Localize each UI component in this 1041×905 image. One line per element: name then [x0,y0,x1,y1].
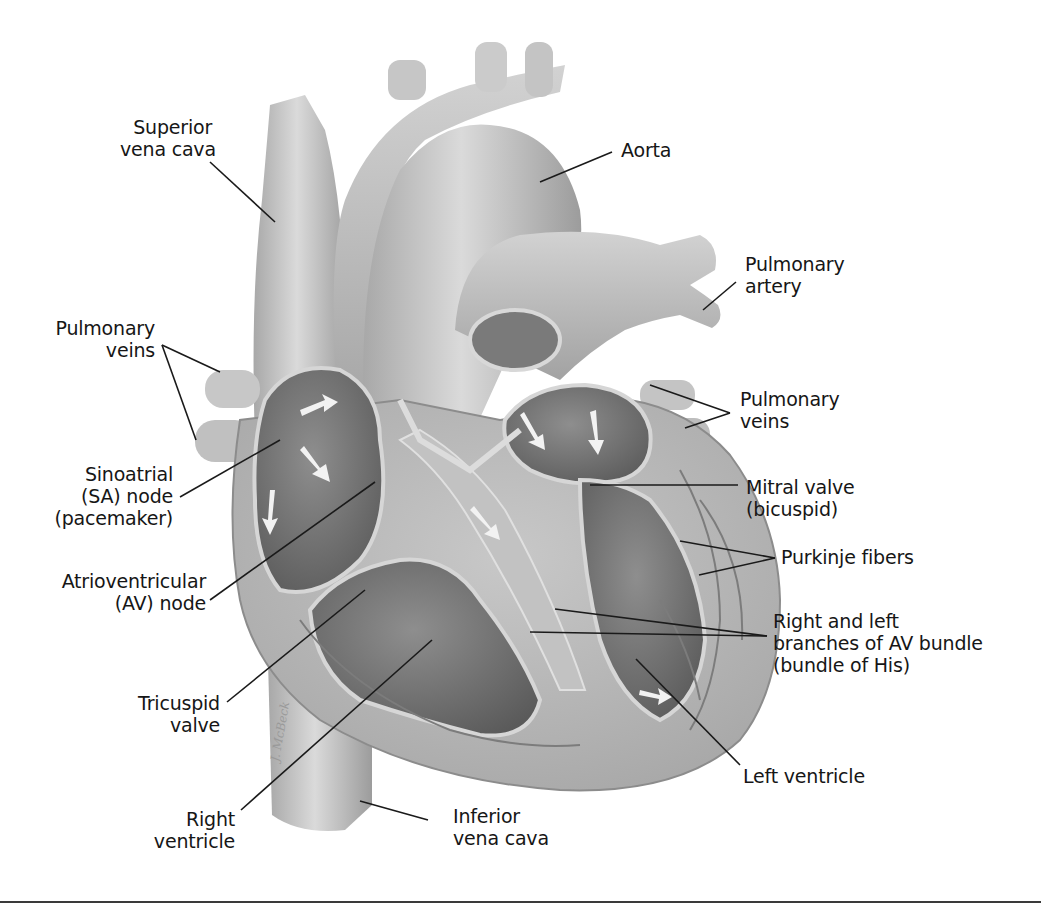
label-purkinje-fibers: Purkinje fibers [781,546,914,568]
label-pulmonary-veins-right: Pulmonary veins [740,388,840,432]
label-mitral-valve: Mitral valve (bicuspid) [746,476,855,520]
label-tricuspid-valve: Tricuspid valve [120,692,220,736]
label-left-ventricle: Left ventricle [743,765,865,787]
label-pulmonary-artery: Pulmonary artery [745,253,845,297]
label-inferior-vena-cava: Inferior vena cava [453,805,549,849]
bottom-rule [0,901,1041,903]
label-superior-vena-cava: Superior vena cava [120,116,212,160]
label-av-bundle-branches: Right and left branches of AV bundle (bu… [773,610,983,676]
label-right-ventricle: Right ventricle [135,808,235,852]
left-atrium-shape [504,385,650,483]
label-atrioventricular-node: Atrioventricular (AV) node [18,570,206,614]
label-sinoatrial-node: Sinoatrial (SA) node (pacemaker) [30,463,173,529]
label-aorta: Aorta [621,139,671,161]
heart-diagram: J. McBeck Superior vena cava Aorta Pulmo… [0,0,1041,905]
label-pulmonary-veins-left: Pulmonary veins [40,317,155,361]
pulmonary-artery-shape [455,232,720,380]
